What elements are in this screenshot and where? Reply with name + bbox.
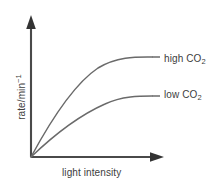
series-label-low-co2: low CO2 bbox=[164, 90, 202, 102]
series-label-high-co2-text: high CO bbox=[164, 53, 201, 64]
arrow-right-icon bbox=[150, 152, 164, 162]
arrow-up-icon bbox=[26, 15, 36, 29]
series-label-low-co2-text: low CO bbox=[164, 89, 197, 100]
series-label-high-co2-subscript: 2 bbox=[201, 57, 205, 66]
curve-high-co2 bbox=[31, 57, 152, 157]
y-axis-label-text: rate/min bbox=[16, 83, 27, 120]
series-label-high-co2: high CO2 bbox=[164, 54, 206, 66]
series-label-low-co2-subscript: 2 bbox=[197, 93, 201, 102]
y-axis-label-exponent: −1 bbox=[14, 74, 23, 83]
x-axis-label: light intensity bbox=[62, 168, 121, 178]
photosynthesis-graph-figure: high CO2 low CO2 light intensity rate/mi… bbox=[0, 0, 222, 191]
y-axis-label: rate/min−1 bbox=[15, 59, 27, 135]
